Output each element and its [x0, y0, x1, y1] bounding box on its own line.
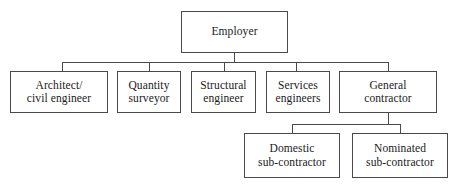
node-quantity-surveyor[interactable]: Quantity surveyor	[117, 71, 181, 113]
node-general-contractor[interactable]: General contractor	[339, 71, 437, 113]
connector-drop-structural-engineer	[224, 62, 225, 71]
connector-drop-services-engineers	[296, 62, 297, 71]
connector-drop-quantity-surveyor	[149, 62, 150, 71]
connector-drop-general-contractor	[388, 62, 389, 71]
node-architect-civil-engineer[interactable]: Architect/ civil engineer	[10, 71, 108, 113]
connector-drop-nominated-sub-contractor	[400, 124, 401, 133]
org-chart-diagram: Employer Architect/ civil engineer Quant…	[0, 0, 455, 187]
node-domestic-sub-contractor[interactable]: Domestic sub-contractor	[244, 133, 340, 178]
connector-drop-domestic-sub-contractor	[292, 124, 293, 133]
node-employer[interactable]: Employer	[181, 11, 288, 53]
connector-main-bus	[62, 62, 389, 63]
connector-drop-architect	[62, 62, 63, 71]
connector-employer-stem	[234, 53, 235, 62]
node-structural-engineer[interactable]: Structural engineer	[191, 71, 256, 113]
connector-sub-bus	[292, 124, 401, 125]
node-nominated-sub-contractor[interactable]: Nominated sub-contractor	[352, 133, 448, 178]
connector-general-contractor-stem	[388, 113, 389, 124]
node-services-engineers[interactable]: Services engineers	[266, 71, 330, 113]
